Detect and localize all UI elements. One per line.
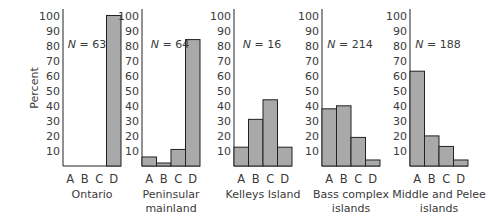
y-tick-label: 90 <box>217 25 231 38</box>
n-value: = 188 <box>424 38 461 51</box>
y-tick-label: 70 <box>217 55 231 68</box>
x-tick-label: A <box>145 172 153 186</box>
y-tick-label: 60 <box>125 70 139 83</box>
sample-size-label: N = 64 <box>151 38 189 51</box>
y-tick-label: 100 <box>386 10 407 23</box>
group-label: Peninsular <box>142 188 200 201</box>
y-tick-label: 90 <box>393 25 407 38</box>
bar-a <box>234 147 249 166</box>
group-label: mainland <box>145 202 196 215</box>
panel-bass-complex-islands: 102030405060708090100ABCDN = 214Bass com… <box>298 9 389 215</box>
y-tick-label: 80 <box>305 40 319 53</box>
y-tick-label: 90 <box>46 25 60 38</box>
y-tick-label: 90 <box>305 25 319 38</box>
y-tick-label: 10 <box>393 145 407 158</box>
x-tick-label: D <box>456 172 465 186</box>
y-tick-label: 40 <box>217 100 231 113</box>
bar-d <box>107 16 122 167</box>
y-tick-label: 20 <box>305 130 319 143</box>
chart: Percent 102030405060708090100ABCDN = 63O… <box>0 0 492 222</box>
y-tick-label: 20 <box>393 130 407 143</box>
x-tick-label: C <box>95 172 103 186</box>
bar-c <box>439 146 454 166</box>
bar-c <box>263 100 278 166</box>
x-tick-label: C <box>354 172 362 186</box>
n-value: = 64 <box>159 38 189 51</box>
x-tick-label: A <box>237 172 245 186</box>
group-label: Kelleys Island <box>226 188 301 201</box>
x-tick-label: B <box>160 172 168 186</box>
group-label: islands <box>420 202 459 215</box>
y-tick-label: 70 <box>125 55 139 68</box>
x-tick-label: D <box>280 172 289 186</box>
group-label: Bass complex <box>313 188 389 201</box>
panel-middle-and-pelee-islands: 102030405060708090100ABCDN = 188Middle a… <box>386 9 486 215</box>
x-tick-label: D <box>368 172 377 186</box>
x-tick-label: B <box>252 172 260 186</box>
sample-size-label: N = 16 <box>243 38 281 51</box>
y-tick-label: 50 <box>305 85 319 98</box>
x-tick-label: C <box>174 172 182 186</box>
y-tick-label: 50 <box>393 85 407 98</box>
bar-d <box>366 160 381 166</box>
x-tick-label: B <box>81 172 89 186</box>
n-symbol: N <box>68 38 76 51</box>
y-tick-label: 100 <box>39 10 60 23</box>
y-tick-label: 30 <box>393 115 407 128</box>
x-tick-label: C <box>442 172 450 186</box>
panel-kelleys-island: 102030405060708090100ABCDN = 16Kelleys I… <box>210 9 300 201</box>
y-tick-label: 60 <box>46 70 60 83</box>
y-tick-label: 30 <box>46 115 60 128</box>
bar-b <box>157 163 172 166</box>
panel-ontario: 102030405060708090100ABCDN = 63Ontario <box>39 9 121 201</box>
bar-c <box>351 137 366 166</box>
group-label: islands <box>332 202 371 215</box>
sample-size-label: N = 188 <box>415 38 460 51</box>
x-tick-label: D <box>188 172 197 186</box>
panels: 102030405060708090100ABCDN = 63Ontario10… <box>39 9 486 215</box>
bar-d <box>186 40 201 166</box>
n-symbol: N <box>327 38 335 51</box>
y-tick-label: 100 <box>210 10 231 23</box>
n-value: = 63 <box>76 38 106 51</box>
y-tick-label: 20 <box>46 130 60 143</box>
y-tick-label: 80 <box>393 40 407 53</box>
y-tick-label: 100 <box>298 10 319 23</box>
x-tick-label: A <box>413 172 421 186</box>
y-tick-label: 40 <box>46 100 60 113</box>
y-tick-label: 80 <box>217 40 231 53</box>
y-tick-label: 100 <box>118 10 139 23</box>
y-tick-label: 60 <box>305 70 319 83</box>
y-tick-label: 70 <box>305 55 319 68</box>
y-tick-label: 30 <box>125 115 139 128</box>
bar-b <box>249 119 264 166</box>
n-symbol: N <box>243 38 251 51</box>
n-symbol: N <box>151 38 159 51</box>
n-value: = 214 <box>336 38 373 51</box>
y-axis-label: Percent <box>28 67 41 109</box>
bar-a <box>322 109 337 166</box>
x-tick-label: A <box>325 172 333 186</box>
y-tick-label: 40 <box>125 100 139 113</box>
y-tick-label: 60 <box>217 70 231 83</box>
y-tick-label: 30 <box>217 115 231 128</box>
y-tick-label: 10 <box>217 145 231 158</box>
bar-a <box>410 71 425 166</box>
sample-size-label: N = 214 <box>327 38 372 51</box>
panel-peninsular-mainland: 102030405060708090100ABCDN = 64Peninsula… <box>118 9 200 215</box>
y-tick-label: 10 <box>46 145 60 158</box>
sample-size-label: N = 63 <box>68 38 106 51</box>
n-value: = 16 <box>251 38 281 51</box>
y-tick-label: 80 <box>46 40 60 53</box>
bar-c <box>171 149 186 166</box>
x-tick-label: B <box>428 172 436 186</box>
y-tick-label: 50 <box>46 85 60 98</box>
y-tick-label: 90 <box>125 25 139 38</box>
y-tick-label: 50 <box>217 85 231 98</box>
y-tick-label: 80 <box>125 40 139 53</box>
y-tick-label: 70 <box>393 55 407 68</box>
y-tick-label: 10 <box>125 145 139 158</box>
x-tick-label: D <box>109 172 118 186</box>
y-tick-label: 40 <box>393 100 407 113</box>
y-tick-label: 30 <box>305 115 319 128</box>
